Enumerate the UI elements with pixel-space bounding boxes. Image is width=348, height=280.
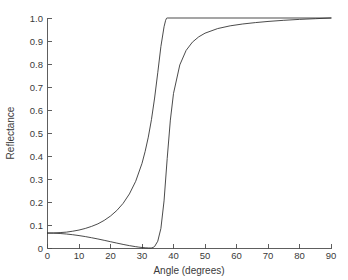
y-tick-label: 0.8 (30, 59, 43, 70)
axis-lines (48, 18, 332, 249)
x-tick-labels: 0 10 20 30 40 50 60 70 80 90 (45, 250, 336, 261)
x-tick-label: 50 (200, 250, 211, 261)
y-tick-label: 0.4 (30, 151, 43, 162)
x-tick-label: 90 (326, 250, 337, 261)
series-line-s-polarized (48, 18, 332, 233)
y-tick-label: 0 (38, 243, 43, 254)
y-axis-title: Reflectance (5, 106, 16, 159)
y-tick-label: 0.9 (30, 36, 43, 47)
y-tick-label: 0.3 (30, 174, 43, 185)
x-axis-title: Angle (degrees) (153, 265, 224, 276)
x-tick-label: 70 (263, 250, 274, 261)
y-tick-label: 1.0 (30, 13, 43, 24)
x-tick-label: 20 (105, 250, 116, 261)
y-tick-marks (48, 18, 53, 248)
x-tick-label: 10 (74, 250, 85, 261)
series-line-p-polarized (48, 18, 332, 248)
x-tick-label: 80 (294, 250, 305, 261)
x-tick-label: 0 (45, 250, 50, 261)
x-tick-label: 40 (168, 250, 179, 261)
y-tick-label: 0.1 (30, 220, 43, 231)
reflectance-line-chart: 1.0 0.9 0.8 0.7 0.6 0.5 0.4 0.3 0.2 0.1 … (0, 0, 348, 280)
y-tick-label: 0.7 (30, 82, 43, 93)
x-tick-label: 30 (137, 250, 148, 261)
y-tick-label: 0.6 (30, 105, 43, 116)
y-tick-label: 0.5 (30, 128, 43, 139)
x-tick-marks (48, 244, 332, 249)
data-series-group (48, 18, 332, 248)
x-tick-label: 60 (231, 250, 242, 261)
y-tick-labels: 1.0 0.9 0.8 0.7 0.6 0.5 0.4 0.3 0.2 0.1 … (30, 13, 43, 254)
chart-figure: 1.0 0.9 0.8 0.7 0.6 0.5 0.4 0.3 0.2 0.1 … (0, 0, 348, 280)
y-tick-label: 0.2 (30, 197, 43, 208)
